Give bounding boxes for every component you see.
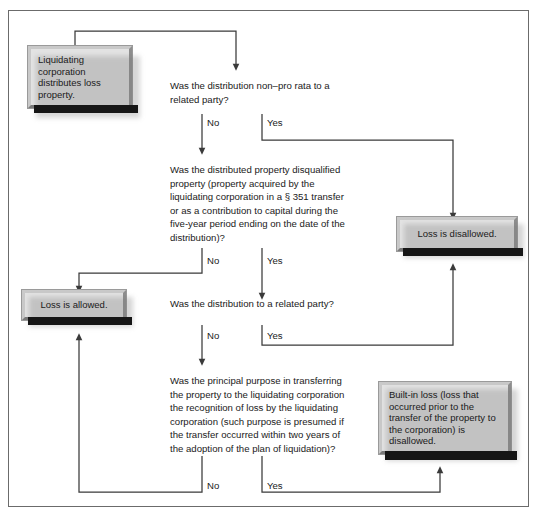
built-in-loss-box: Built-in loss (loss that occurred prior … bbox=[379, 382, 511, 454]
edge-label-q4-no: No bbox=[207, 480, 219, 491]
edge-label-q3-no: No bbox=[207, 330, 219, 341]
edge-label-q3-yes: Yes bbox=[267, 330, 283, 341]
loss-disallowed-label: Loss is disallowed. bbox=[417, 228, 496, 240]
edge-label-q1-no: No bbox=[207, 117, 219, 128]
built-in-loss-label: Built-in loss (loss that occurred prior … bbox=[389, 389, 501, 447]
start-box-label: Liquidating corporation distributes loss… bbox=[38, 54, 122, 100]
start-box-base bbox=[34, 105, 138, 113]
flowchart-canvas: Liquidating corporation distributes loss… bbox=[0, 0, 538, 526]
start-box: Liquidating corporation distributes loss… bbox=[28, 46, 132, 108]
edge-label-q4-yes: Yes bbox=[267, 480, 283, 491]
edge-label-q1-yes: Yes bbox=[267, 117, 283, 128]
built-in-loss-base bbox=[385, 451, 517, 460]
edge-label-q2-no: No bbox=[207, 255, 219, 266]
loss-allowed-label: Loss is allowed. bbox=[40, 299, 107, 311]
question-1-text: Was the distribution non–pro rata to a r… bbox=[170, 79, 410, 106]
loss-disallowed-base bbox=[403, 248, 523, 256]
loss-allowed-base bbox=[28, 317, 132, 325]
edge-label-q2-yes: Yes bbox=[267, 255, 283, 266]
question-2-text: Was the distributed property disqualifie… bbox=[170, 163, 420, 245]
question-4-text: Was the principal purpose in transferrin… bbox=[170, 374, 422, 456]
question-3-text: Was the distribution to a related party? bbox=[170, 297, 420, 311]
